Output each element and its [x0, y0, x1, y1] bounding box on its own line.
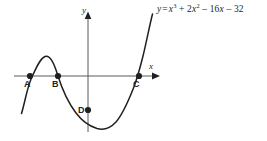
point-d-marker	[85, 107, 91, 113]
equation-term3-base: x	[220, 4, 224, 14]
equation-minus2: –	[226, 4, 231, 14]
equation-plus1: +	[179, 4, 185, 14]
graph-canvas	[0, 0, 267, 141]
equation-term2-exponent: 2	[196, 2, 199, 9]
equation-minus1: –	[202, 4, 207, 14]
cubic-graph-figure: A B C D x y y = x3 + 2x2 – 16x – 32	[0, 0, 267, 141]
point-a-label: A	[24, 80, 31, 89]
point-d-label: D	[78, 106, 85, 115]
point-c-label: C	[133, 80, 140, 89]
point-b-label: B	[52, 80, 59, 89]
x-axis-label: x	[149, 62, 153, 71]
equation-term4: 32	[234, 4, 244, 14]
equation-equals: =	[162, 4, 168, 14]
y-axis	[85, 12, 92, 133]
y-axis-label: y	[82, 6, 86, 15]
equation-label: y = x3 + 2x2 – 16x – 32	[157, 5, 244, 15]
equation-term1-exponent: 3	[173, 2, 176, 9]
equation-term3-coef: 16	[210, 4, 220, 14]
equation-lhs: y	[157, 4, 161, 14]
